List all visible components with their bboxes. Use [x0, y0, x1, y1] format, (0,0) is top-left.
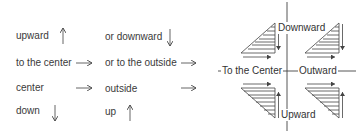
legend-row-2-left: to the center [16, 57, 72, 69]
triangle-top-left [241, 23, 279, 57]
label-to-the-center: To the Center [221, 65, 283, 77]
triangle-bottom-left [241, 84, 279, 118]
legend-row-3-left: center [16, 82, 44, 94]
label-upward: Upward [280, 109, 316, 121]
legend-row-1-left: upward [16, 30, 49, 42]
legend-row-1-right: or downward [105, 31, 162, 43]
legend-row-3-right: outside [105, 83, 137, 95]
legend-row-4-left: down [16, 105, 40, 117]
legend-row-2-right: or to the outside [105, 57, 177, 69]
label-outward: Outward [298, 65, 338, 77]
label-downward: Downward [277, 22, 326, 34]
legend-row-4-right: up [105, 106, 116, 118]
